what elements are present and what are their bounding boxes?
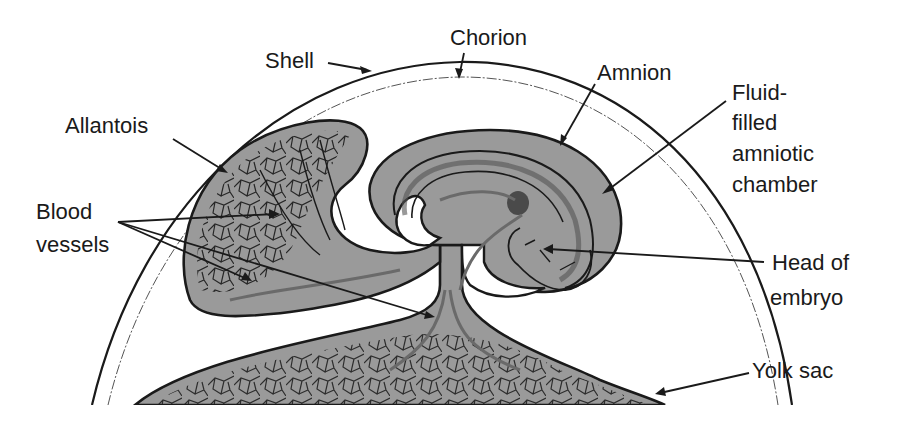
label-head-of-embryo-2: embryo bbox=[770, 285, 843, 310]
label-yolk-sac: Yolk sac bbox=[752, 358, 833, 383]
label-fluid-chamber-3: amniotic bbox=[732, 141, 814, 166]
label-shell: Shell bbox=[265, 48, 314, 73]
heart bbox=[507, 191, 529, 215]
egg-membranes-diagram: Shell Chorion Amnion Allantois Fluid- fi… bbox=[0, 0, 897, 437]
label-chorion: Chorion bbox=[450, 25, 527, 50]
label-fluid-chamber-4: chamber bbox=[732, 172, 818, 197]
label-fluid-chamber-1: Fluid- bbox=[732, 80, 787, 105]
label-fluid-chamber-2: filled bbox=[732, 110, 777, 135]
label-blood-vessels-2: vessels bbox=[36, 232, 109, 257]
label-blood-vessels-1: Blood bbox=[36, 199, 92, 224]
label-head-of-embryo-1: Head of bbox=[772, 250, 850, 275]
label-allantois: Allantois bbox=[65, 113, 148, 138]
label-amnion: Amnion bbox=[597, 60, 672, 85]
